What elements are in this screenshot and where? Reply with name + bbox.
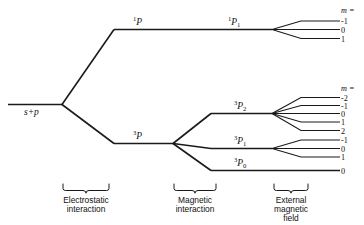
m-value-singlet-p1-2: 1 [341, 35, 345, 44]
zeeman-line-triplet-p1-m-minus1 [272, 140, 340, 149]
caption-magnetic-line-2: interaction [176, 204, 215, 214]
m-value-triplet-p0-0: 0 [341, 167, 345, 176]
brace-electrostatic-path [63, 184, 109, 193]
caption-external-line-3: field [283, 213, 299, 223]
brace-magnetic-path [174, 184, 216, 193]
connector-to-triplet-p [62, 105, 114, 144]
svg-text:3P: 3P [133, 129, 142, 141]
svg-text:1P1: 1P1 [228, 15, 240, 28]
zeeman-line-singlet-p1-m-plus1 [272, 30, 340, 39]
m-labels-singlet-p1: m = -1 0 1 [341, 6, 355, 44]
svg-text:s+p: s+p [24, 107, 39, 117]
m-header-singlet-p1: m = [341, 6, 355, 15]
zeeman-line-triplet-p2-m-minus1 [272, 106, 340, 114]
diagram-canvas: s+p 1P 3P 1P1 3P2 3P1 [0, 0, 364, 225]
magnetic-split-connectors [173, 114, 211, 171]
triplet-p0-subscript: 0 [243, 162, 247, 169]
caption-external: External magnetic field [274, 195, 308, 223]
connector-to-singlet-p [62, 30, 114, 105]
connector-to-triplet-p2 [173, 114, 211, 144]
term-symbol-ground: s+p [24, 107, 39, 117]
m-value-triplet-p1-2: 1 [341, 153, 345, 162]
caption-electrostatic-line-2: interaction [67, 204, 106, 214]
ground-label-text: s+p [24, 107, 39, 117]
svg-text:3P2: 3P2 [234, 99, 246, 112]
m-value-triplet-p2-4: 2 [341, 127, 345, 136]
energy-level-diagram: s+p 1P 3P 1P1 3P2 3P1 [0, 0, 364, 225]
term-symbol-triplet-p2: 3P2 [234, 99, 246, 112]
triplet-p2-subscript: 2 [243, 105, 246, 112]
svg-text:3P1: 3P1 [234, 134, 246, 147]
svg-text:1P: 1P [133, 15, 142, 27]
brace-external-path [274, 184, 308, 193]
term-symbol-singlet-p: 1P [133, 15, 142, 27]
caption-electrostatic: Electrostatic interaction [63, 195, 109, 214]
singlet-p-main: P [135, 17, 142, 27]
zeeman-line-triplet-p2-m-plus1 [272, 114, 340, 123]
zeeman-fan-triplet-p1 [272, 140, 340, 157]
zeeman-fan-singlet-p1 [272, 21, 340, 39]
m-labels-triplet-p2: m = -2 -1 0 1 2 [341, 84, 355, 136]
brace-magnetic [174, 184, 216, 193]
term-symbol-singlet-p1: 1P1 [228, 15, 240, 28]
m-labels-triplet-p0: 0 [341, 167, 345, 176]
singlet-p1-subscript: 1 [237, 21, 240, 28]
brace-external [274, 184, 308, 193]
brace-electrostatic [63, 184, 109, 193]
term-symbol-triplet-p: 3P [133, 129, 142, 141]
zeeman-line-triplet-p1-m-plus1 [272, 149, 340, 158]
term-symbol-triplet-p0: 3P0 [234, 156, 247, 169]
m-labels-triplet-p1: -1 0 1 [341, 136, 348, 162]
svg-text:3P0: 3P0 [234, 156, 247, 169]
triplet-p-main: P [135, 131, 142, 141]
caption-magnetic: Magnetic interaction [176, 195, 215, 214]
term-symbol-triplet-p1: 3P1 [234, 134, 246, 147]
zeeman-line-singlet-p1-m-minus1 [272, 21, 340, 30]
m-header-triplet-p2: m = [341, 84, 355, 93]
m-value-singlet-p1-1: 0 [341, 26, 345, 35]
electrostatic-split-connectors [62, 30, 114, 144]
triplet-p1-subscript: 1 [243, 140, 246, 147]
zeeman-fan-triplet-p2 [272, 98, 340, 131]
